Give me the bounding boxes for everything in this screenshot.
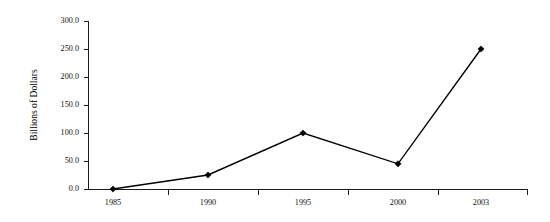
y-axis-title-group: Billions of Dollars xyxy=(28,69,39,141)
y-tick-label-2: 100.0 xyxy=(61,128,79,137)
y-tick-0: 0.0 xyxy=(69,184,89,193)
data-point-1990: 1990: 25 xyxy=(205,172,211,178)
data-series-billions-of-dollars: 1985: 01990: 251995: 1002000: 452003: 25… xyxy=(110,46,484,192)
y-tick-label-6: 300.0 xyxy=(61,16,79,25)
y-tick-label-1: 50.0 xyxy=(65,156,79,165)
x-tick-label-1990: 1990 xyxy=(200,198,216,207)
x-tick-label-1995: 1995 xyxy=(295,198,311,207)
x-tick-label-1985: 1985 xyxy=(105,198,121,207)
y-tick-label-5: 250.0 xyxy=(61,44,79,53)
y-tick-2: 100.0 xyxy=(61,128,89,137)
x-tick-label-2000: 2000 xyxy=(390,198,406,207)
y-tick-1: 50.0 xyxy=(65,156,89,165)
y-tick-4: 200.0 xyxy=(61,72,89,81)
data-point-1995: 1995: 100 xyxy=(300,130,306,136)
x-tick-label-2003: 2003 xyxy=(473,198,489,207)
x-axis-labels: 1985 1990 1995 2000 2003 xyxy=(105,198,489,207)
y-tick-6: 300.0 xyxy=(61,16,89,25)
y-tick-label-3: 150.0 xyxy=(61,100,79,109)
y-axis-ticks: 0.0 50.0 100.0 150.0 200.0 250.0 xyxy=(61,16,89,193)
series-line-path xyxy=(113,49,481,189)
x-axis-ticks xyxy=(169,190,528,195)
y-tick-label-0: 0.0 xyxy=(69,184,79,193)
y-axis-title: Billions of Dollars xyxy=(28,69,39,141)
data-point-1985: 1985: 0 xyxy=(110,186,116,192)
y-tick-5: 250.0 xyxy=(61,44,89,53)
chart-canvas: Billions of Dollars 0.0 50.0 100.0 150.0 xyxy=(0,0,550,222)
y-tick-3: 150.0 xyxy=(61,100,89,109)
line-chart-figure: Billions of Dollars 0.0 50.0 100.0 150.0 xyxy=(0,0,550,222)
y-tick-label-4: 200.0 xyxy=(61,72,79,81)
series-marker-group: 1985: 01990: 251995: 1002000: 452003: 25… xyxy=(110,46,484,192)
